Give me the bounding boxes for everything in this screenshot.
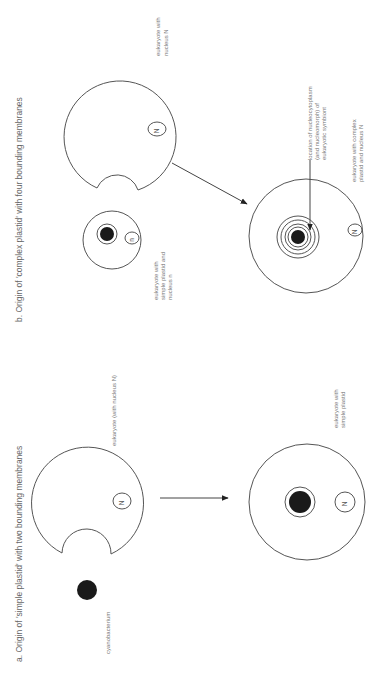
panel-b-symbiont-label-1: eukaryote with (153, 261, 159, 300)
panel-a-result-nucleus-label: N (341, 501, 348, 506)
panel-a-result-label-1: eukaryote with (333, 389, 339, 428)
panel-a-host-label: eukaryote (with nucleus N) (111, 375, 117, 446)
panel-b-pointer-label-3: eukaryotic symbiont (321, 107, 327, 160)
endosymbiosis-figure: b. Origin of 'complex plastid' with four… (0, 0, 383, 677)
panel-b-pointer-label-1: location of nucleocytoplasm (307, 86, 313, 160)
panel-b-host-label-2: nucleus N (163, 29, 169, 56)
panel-b-result-label-1: eukaryote with complex (351, 119, 357, 182)
panel-a-simple-plastid (289, 491, 311, 513)
panel-b-symbiont-label-3: nucleus n (167, 274, 173, 300)
panel-a-title: a. Origin of 'simple plastid' with two b… (14, 446, 24, 662)
panel-a-host-nucleus-label: N (118, 500, 125, 505)
panel-b-symbiont-label-2: simple plastid and (160, 252, 166, 300)
panel-b-symbiont-plastid (100, 227, 114, 241)
panel-b-pointer-label-2: (and nucleomorph) of (314, 103, 320, 160)
panel-b: b. Origin of 'complex plastid' with four… (14, 17, 364, 322)
panel-b-transition-arrow (172, 163, 247, 204)
panel-a: a. Origin of 'simple plastid' with two b… (14, 375, 365, 662)
cyanobacterium-cell (77, 580, 97, 600)
panel-b-host-nucleus-label: N (153, 128, 160, 133)
diagram-canvas: b. Origin of 'complex plastid' with four… (0, 0, 383, 677)
panel-b-symbiont-nucleus-label: n (128, 238, 135, 242)
panel-b-result-label-2: plastid and nucleus N (358, 125, 364, 182)
panel-b-result-nucleus-label: N (351, 229, 358, 234)
panel-a-host-cell (32, 447, 144, 554)
panel-a-result-label-2: simple plastid (340, 392, 346, 428)
panel-b-complex-plastid (291, 230, 305, 244)
panel-b-title: b. Origin of 'complex plastid' with four… (14, 97, 24, 322)
panel-b-result-cell (249, 179, 363, 293)
panel-b-host-label-1: eukaryote with (155, 17, 161, 56)
cyanobacterium-label: cyanobacterium (105, 612, 111, 654)
